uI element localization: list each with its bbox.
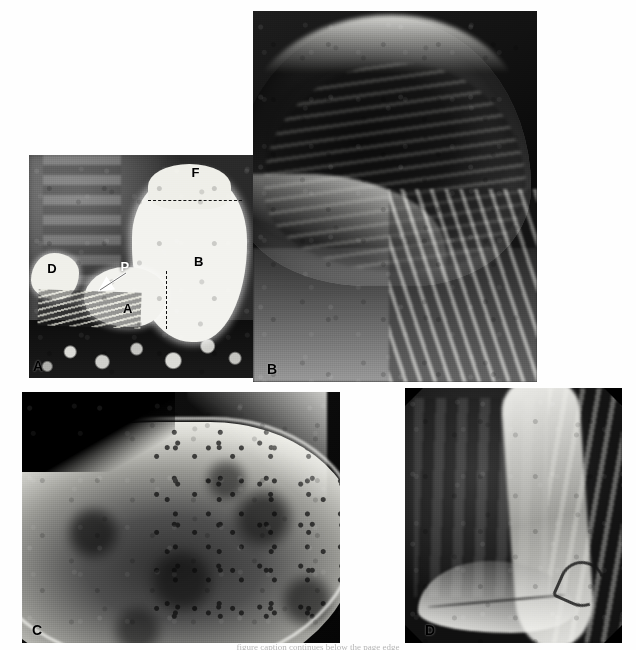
label-body-b: B xyxy=(194,255,204,268)
panel-letter-c: C xyxy=(32,623,42,637)
panel-a-radiograph xyxy=(29,155,258,378)
panel-c-radiograph xyxy=(22,392,340,643)
air-fluid-level-dashed-line xyxy=(148,200,242,201)
label-pylorus-p: P xyxy=(121,260,130,273)
panel-b-radiograph xyxy=(253,11,537,382)
label-duodenum-d: D xyxy=(47,262,57,275)
corner-mask-bottom-right xyxy=(604,625,622,643)
panel-c-magnified-body-greater-curvature[interactable]: C xyxy=(22,392,340,643)
corner-mask-bottom-left xyxy=(405,625,423,643)
panel-letter-d: D xyxy=(425,623,435,637)
pylorus-arrow-icon xyxy=(95,271,129,295)
film-grain xyxy=(22,392,340,643)
film-grain xyxy=(29,155,258,378)
panel-d-magnified-antrum-duodenum[interactable]: D xyxy=(405,388,622,643)
film-grain xyxy=(405,388,622,643)
radiograph-figure: F B A D P A B C xyxy=(0,0,636,650)
corner-mask-top-right xyxy=(604,388,622,406)
panel-d-radiograph xyxy=(405,388,622,643)
panel-letter-a: A xyxy=(33,359,43,373)
antrum-body-boundary-dashed-line xyxy=(166,271,167,329)
label-fundus-f: F xyxy=(192,166,200,179)
label-antrum-a: A xyxy=(123,302,133,315)
panel-b-magnified-fundus-cardia[interactable]: B xyxy=(253,11,537,382)
figure-caption-truncated: figure caption continues below the page … xyxy=(0,642,636,650)
corner-mask-top-left xyxy=(405,388,423,406)
film-grain xyxy=(253,11,537,382)
panel-a-overview-barium-stomach[interactable]: F B A D P A xyxy=(29,155,258,378)
panel-letter-b: B xyxy=(267,362,277,376)
